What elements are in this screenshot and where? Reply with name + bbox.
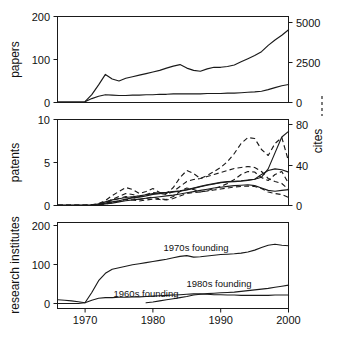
- patents-ytick-5: 5: [44, 157, 50, 169]
- panel-patents-left-axis: 10 5 0 patents: [8, 114, 58, 212]
- cites-lower-ytick-80: 80: [296, 119, 308, 131]
- papers-ytick-0: 0: [44, 97, 50, 109]
- annotation-1970s-founding: 1970s founding: [164, 242, 229, 253]
- panel-papers-right-axis: 5000 2500 0: [289, 17, 321, 109]
- x-axis: 1970 1980 1990 2000: [73, 309, 301, 327]
- cites-lower-ytick-0: 0: [296, 200, 302, 212]
- cites-legend-group: cites: [311, 96, 325, 153]
- cites-upper-ytick-2500: 2500: [296, 57, 320, 69]
- panel-research-institutes: 200 100 0 research institutes 1970 1980 …: [8, 216, 301, 326]
- series-papers-upper: [58, 30, 289, 102]
- patents-ytick-0: 0: [44, 200, 50, 212]
- patents-ytick-10: 10: [38, 114, 50, 126]
- xtick-1970: 1970: [73, 314, 97, 326]
- institutes-axis-title: research institutes: [8, 216, 22, 313]
- cites-axis-title: cites: [311, 129, 325, 154]
- series-patents-upper: [58, 131, 289, 205]
- institutes-ytick-0: 0: [44, 298, 50, 310]
- xtick-2000: 2000: [276, 314, 300, 326]
- papers-axis-title: papers: [8, 41, 22, 78]
- panel-institutes-left-axis: 200 100 0 research institutes: [8, 216, 58, 313]
- series-patents-cites-upper: [58, 172, 289, 206]
- xtick-1980: 1980: [141, 314, 165, 326]
- three-panel-line-chart: 200 100 0 papers 5000 2500 0: [0, 0, 342, 346]
- cites-upper-ytick-0: 0: [296, 97, 302, 109]
- annotation-1980s-founding: 1980s founding: [187, 278, 252, 289]
- panel-papers-left-axis: 200 100 0 papers: [8, 11, 58, 109]
- cites-lower-ytick-40: 40: [296, 160, 308, 172]
- patents-axis-title: patents: [8, 143, 22, 182]
- institutes-ytick-100: 100: [32, 259, 50, 271]
- panel-patents-right-axis: 80 40 0: [289, 119, 309, 212]
- xtick-1990: 1990: [208, 314, 232, 326]
- figure-container: 200 100 0 papers 5000 2500 0: [0, 0, 342, 346]
- panel-patents: 10 5 0 patents 80 40 0: [8, 114, 308, 212]
- papers-ytick-200: 200: [32, 11, 50, 23]
- papers-ytick-100: 100: [32, 54, 50, 66]
- cites-upper-ytick-5000: 5000: [296, 17, 320, 29]
- panel-papers-frame: [58, 17, 289, 103]
- series-patents-cites-lower: [58, 186, 289, 205]
- annotation-1960s-founding: 1960s founding: [114, 288, 179, 299]
- institutes-ytick-200: 200: [32, 220, 50, 232]
